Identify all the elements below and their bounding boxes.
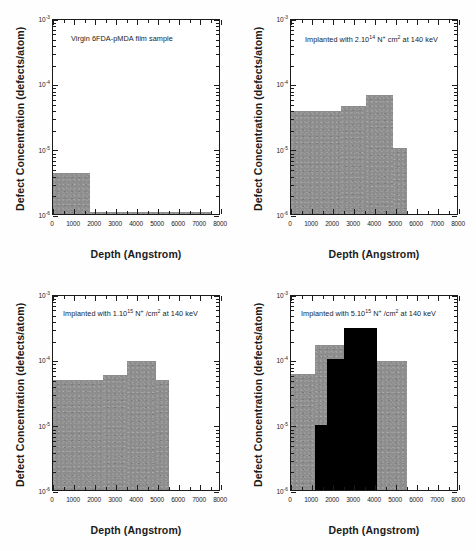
y-axis-tick	[53, 20, 58, 21]
y-axis-tick-label: 10-5	[26, 146, 50, 154]
x-axis-tick	[95, 209, 96, 214]
x-axis-tick-label: 3000	[108, 496, 122, 503]
x-axis-minor-tick	[211, 20, 212, 23]
x-axis-tick	[116, 20, 117, 25]
y-axis-minor-tick	[216, 105, 219, 106]
x-axis-tick	[179, 485, 180, 490]
y-axis-tick-base: 10	[39, 292, 46, 299]
plot-area	[291, 20, 457, 214]
y-axis-tick	[214, 150, 219, 151]
x-axis-tick	[53, 209, 54, 214]
y-axis-minor-tick	[454, 177, 457, 178]
bar-gray-bin-1	[291, 374, 315, 490]
x-axis-minor-tick	[365, 487, 366, 490]
x-axis-tick-label: 7000	[430, 220, 444, 227]
y-axis-minor-tick	[291, 395, 294, 396]
y-axis-minor-tick	[53, 368, 56, 369]
x-axis-tick-label: 7000	[430, 496, 444, 503]
y-axis-minor-tick	[454, 100, 457, 101]
y-axis-minor-tick	[216, 131, 219, 132]
x-axis-tick	[375, 485, 376, 490]
y-axis-minor-tick	[216, 437, 219, 438]
y-axis-minor-tick	[291, 381, 294, 382]
y-axis-minor-tick	[216, 342, 219, 343]
y-axis-minor-tick	[216, 364, 219, 365]
x-axis-minor-tick	[302, 211, 303, 214]
y-axis-minor-tick	[291, 453, 294, 454]
y-axis-minor-tick	[216, 177, 219, 178]
y-axis-minor-tick	[216, 165, 219, 166]
y-axis-minor-tick	[454, 430, 457, 431]
x-axis-minor-tick	[407, 20, 408, 23]
x-axis-tick	[291, 209, 292, 214]
annotation-pre: Implanted with 5.10	[301, 309, 365, 318]
x-axis-tick-label: 8000	[451, 496, 465, 503]
y-axis-minor-tick	[454, 453, 457, 454]
y-axis-minor-tick	[454, 368, 457, 369]
y-axis-minor-tick	[454, 299, 457, 300]
x-axis-tick	[179, 209, 180, 214]
annotation-mid: N	[133, 309, 140, 318]
y-axis-tick	[214, 361, 219, 362]
y-axis-minor-tick	[291, 316, 294, 317]
x-axis-minor-tick	[407, 487, 408, 490]
y-axis-tick-exponent: -5	[284, 422, 288, 427]
y-axis-tick-base: 10	[277, 423, 284, 430]
x-axis-minor-tick	[365, 20, 366, 23]
y-axis-minor-tick	[291, 433, 294, 434]
y-axis-minor-tick	[454, 407, 457, 408]
x-axis-tick	[417, 20, 418, 25]
y-axis-tick-exponent: -3	[46, 291, 50, 296]
y-axis-minor-tick	[216, 387, 219, 388]
x-axis-tick	[137, 485, 138, 490]
bar-bin-1	[53, 380, 103, 490]
y-axis-minor-tick	[454, 88, 457, 89]
y-axis-tick-label: 10-3	[264, 15, 288, 23]
y-axis-minor-tick	[454, 23, 457, 24]
x-axis-tick	[95, 485, 96, 490]
y-axis-tick-base: 10	[39, 357, 46, 364]
y-axis-tick-base: 10	[39, 81, 46, 88]
y-axis-minor-tick	[216, 66, 219, 67]
plot-frame: Virgin 6FDA-pMDA film sample	[52, 19, 220, 215]
y-axis-tick-base: 10	[39, 147, 46, 154]
y-axis-tick-label: 10-3	[26, 291, 50, 299]
y-axis-minor-tick	[454, 330, 457, 331]
y-axis-minor-tick	[291, 161, 294, 162]
y-axis-minor-tick	[216, 92, 219, 93]
y-axis-minor-tick	[216, 23, 219, 24]
y-axis-tick	[53, 150, 58, 151]
y-axis-minor-tick	[291, 88, 294, 89]
x-axis-tick-label: 8000	[451, 220, 465, 227]
y-axis-minor-tick	[216, 26, 219, 27]
x-axis-tick	[333, 20, 334, 25]
x-axis-tick-label: 2000	[87, 220, 101, 227]
plot-area	[53, 296, 219, 490]
bar-gray-bin-4	[377, 361, 407, 490]
x-axis-tick	[221, 485, 222, 490]
y-axis-minor-tick	[216, 306, 219, 307]
x-axis-minor-tick	[344, 487, 345, 490]
y-axis-minor-tick	[291, 446, 294, 447]
y-axis-minor-tick	[53, 34, 56, 35]
x-axis-tick	[312, 296, 313, 301]
x-axis-tick	[312, 209, 313, 214]
y-axis-tick	[291, 216, 296, 217]
y-axis-minor-tick	[291, 387, 294, 388]
y-axis-minor-tick	[53, 66, 56, 67]
x-axis-tick-label: 4000	[367, 496, 381, 503]
y-axis-tick	[452, 85, 457, 86]
bar-black-bin-1	[315, 425, 327, 490]
x-axis-tick	[74, 296, 75, 301]
y-axis-minor-tick	[291, 441, 294, 442]
x-axis-minor-tick	[344, 20, 345, 23]
x-axis-minor-tick	[127, 211, 128, 214]
y-axis-tick-label: 10-5	[264, 422, 288, 430]
annotation-mid: N	[371, 309, 378, 318]
x-axis-tick	[417, 485, 418, 490]
x-axis-minor-tick	[85, 487, 86, 490]
y-axis-minor-tick	[53, 376, 56, 377]
y-axis-minor-tick	[53, 433, 56, 434]
y-axis-minor-tick	[216, 430, 219, 431]
x-axis-tick-label: 0	[288, 220, 291, 227]
